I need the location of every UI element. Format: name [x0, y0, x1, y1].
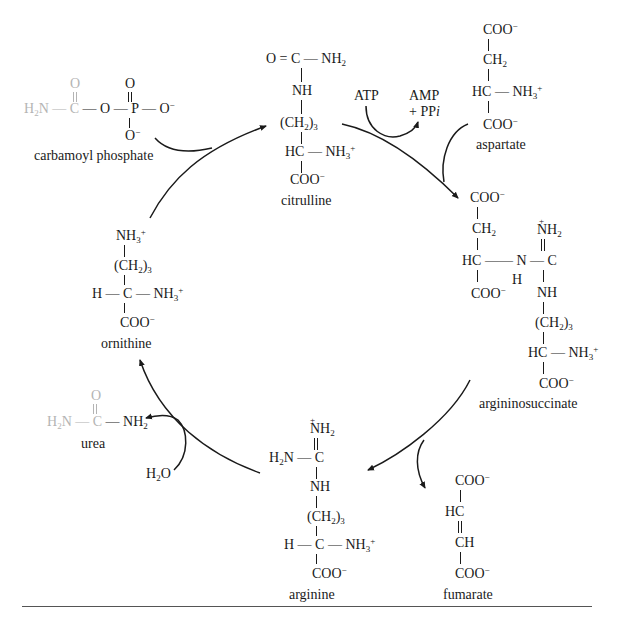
- arrow-argininosuccinate-to-arginine: [368, 380, 470, 470]
- bottom-rule: [22, 606, 592, 607]
- label-water: H2O: [146, 466, 171, 482]
- label-ornithine: ornithine: [101, 336, 152, 352]
- label-aspartate: aspartate: [476, 137, 526, 153]
- label-urea: urea: [81, 436, 105, 452]
- label-fumarate: fumarate: [443, 587, 493, 603]
- label-atp: ATP: [354, 88, 379, 104]
- label-carbamoyl-phosphate: carbamoyl phosphate: [34, 148, 153, 164]
- arrow-citrulline-to-argininosuccinate: [342, 124, 458, 198]
- arrow-ornithine-to-citrulline: [150, 126, 266, 218]
- arrow-aspartate-in: [443, 124, 468, 182]
- arrow-carbamoyl-phosphate-in: [155, 138, 212, 151]
- arrow-fumarate-out: [417, 440, 425, 488]
- label-arginine: arginine: [289, 587, 335, 603]
- label-amp: AMP: [409, 88, 439, 104]
- arrow-arginine-to-ornithine: [140, 360, 260, 473]
- label-ppi: + PPi: [409, 104, 440, 120]
- label-citrulline: citrulline: [281, 193, 332, 209]
- label-argininosuccinate: argininosuccinate: [479, 396, 578, 412]
